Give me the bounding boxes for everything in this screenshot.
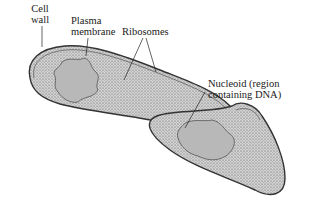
label-plasma-membrane: Plasma membrane — [71, 15, 115, 37]
label-text: containing DNA) — [208, 89, 281, 100]
label-nucleoid: Nucleoid (region containing DNA) — [208, 78, 281, 100]
label-text: Nucleoid (region — [208, 78, 281, 89]
label-text: wall — [31, 14, 49, 25]
label-cell-wall: Cell wall — [31, 3, 49, 25]
label-text: Cell — [31, 3, 49, 14]
label-ribosomes: Ribosomes — [122, 26, 169, 37]
label-text: Plasma — [71, 15, 115, 26]
label-text: membrane — [71, 26, 115, 37]
